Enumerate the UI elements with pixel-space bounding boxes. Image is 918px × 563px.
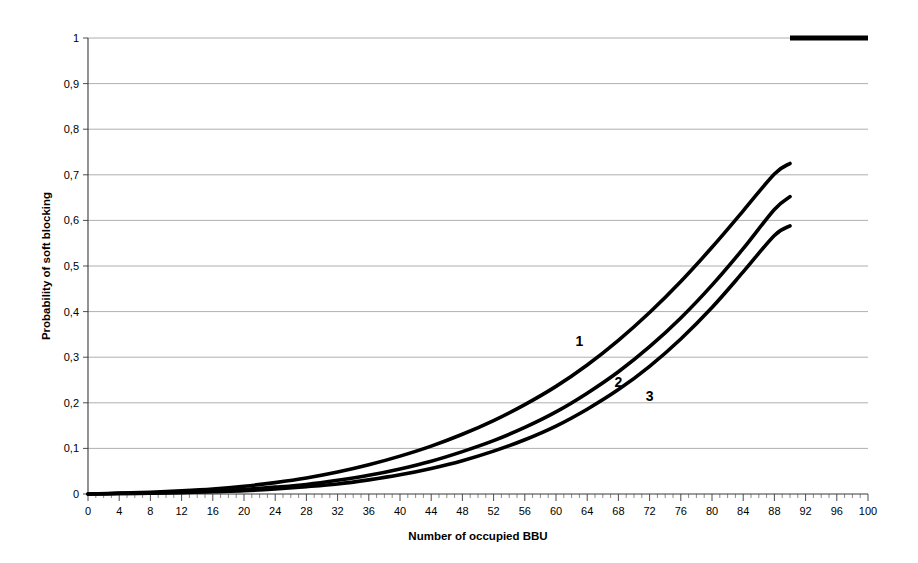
- x-tick-label: 60: [550, 505, 562, 517]
- x-tick-label: 48: [456, 505, 468, 517]
- x-tick-label: 100: [859, 505, 877, 517]
- x-tick-label: 36: [363, 505, 375, 517]
- x-tick-label: 88: [768, 505, 780, 517]
- x-tick-label: 12: [175, 505, 187, 517]
- y-tick-label: 0,9: [64, 78, 79, 90]
- x-tick-label: 32: [331, 505, 343, 517]
- x-tick-label: 24: [269, 505, 281, 517]
- y-tick-label: 0,5: [64, 260, 79, 272]
- y-tick-label: 0,3: [64, 351, 79, 363]
- x-tick-label: 8: [147, 505, 153, 517]
- x-tick-label: 72: [643, 505, 655, 517]
- soft-blocking-probability-chart: 00,10,20,30,40,50,60,70,80,91 0481216202…: [0, 0, 918, 563]
- x-tick-label: 92: [799, 505, 811, 517]
- x-axis-title: Number of occupied BBU: [408, 530, 547, 542]
- y-tick-label: 1: [73, 32, 79, 44]
- x-tick-label: 96: [831, 505, 843, 517]
- x-tick-label: 84: [737, 505, 749, 517]
- x-tick-label: 80: [706, 505, 718, 517]
- chart-container: 00,10,20,30,40,50,60,70,80,91 0481216202…: [0, 0, 918, 563]
- x-tick-label: 40: [394, 505, 406, 517]
- x-tick-label: 64: [581, 505, 593, 517]
- x-tick-label: 20: [238, 505, 250, 517]
- y-tick-label: 0,6: [64, 214, 79, 226]
- y-tick-label: 0,1: [64, 442, 79, 454]
- x-tick-label: 56: [519, 505, 531, 517]
- x-tick-label: 52: [487, 505, 499, 517]
- series-label-2: 2: [615, 374, 623, 390]
- x-tick-label: 28: [300, 505, 312, 517]
- y-tick-label: 0,8: [64, 123, 79, 135]
- series-label-1: 1: [576, 333, 584, 349]
- x-tick-label: 16: [207, 505, 219, 517]
- y-tick-label: 0,4: [64, 306, 79, 318]
- x-tick-label: 68: [612, 505, 624, 517]
- x-tick-label: 4: [116, 505, 122, 517]
- y-axis-title: Probability of soft blocking: [40, 192, 52, 340]
- y-tick-label: 0,7: [64, 169, 79, 181]
- series-label-3: 3: [646, 388, 654, 404]
- chart-background: [0, 0, 918, 563]
- x-tick-label: 44: [425, 505, 437, 517]
- y-tick-label: 0,2: [64, 397, 79, 409]
- x-tick-label: 76: [675, 505, 687, 517]
- x-tick-label: 0: [85, 505, 91, 517]
- y-tick-label: 0: [73, 488, 79, 500]
